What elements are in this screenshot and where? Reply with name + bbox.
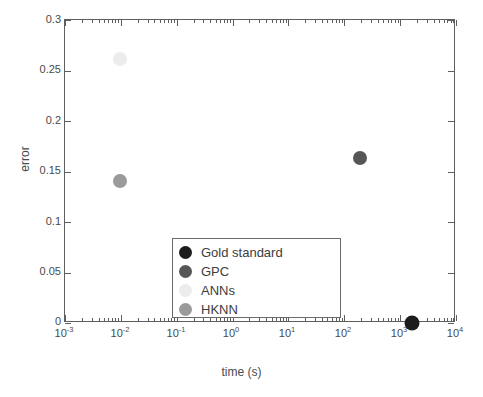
x-tick-label: 103 xyxy=(391,327,407,339)
y-axis-major-tick xyxy=(65,222,71,223)
x-axis-minor-tick xyxy=(280,318,281,321)
x-axis-minor-tick xyxy=(115,20,116,23)
y-tick-label: 0.2 xyxy=(46,115,61,126)
x-axis-minor-tick xyxy=(383,318,384,321)
x-axis-major-tick xyxy=(400,315,401,321)
x-axis-minor-tick xyxy=(453,318,454,321)
x-axis-minor-tick xyxy=(92,318,93,321)
data-point-hknn xyxy=(113,174,127,188)
data-point-anns xyxy=(113,52,127,66)
legend-item-gpc: GPC xyxy=(179,262,229,281)
x-axis-minor-tick xyxy=(220,20,221,23)
x-axis-minor-tick xyxy=(444,318,445,321)
y-axis-major-tick xyxy=(65,20,71,21)
x-axis-minor-tick xyxy=(371,318,372,321)
x-axis-minor-tick xyxy=(388,318,389,321)
x-axis-major-tick xyxy=(177,20,178,26)
x-axis-minor-tick xyxy=(336,318,337,321)
x-axis-minor-tick xyxy=(99,318,100,321)
x-axis-minor-tick xyxy=(439,318,440,321)
x-axis-minor-tick xyxy=(427,20,428,23)
x-axis-minor-tick xyxy=(168,20,169,23)
x-axis-major-tick xyxy=(121,20,122,26)
x-axis-minor-tick xyxy=(383,20,384,23)
x-axis-minor-tick xyxy=(171,20,172,23)
x-axis-minor-tick xyxy=(395,20,396,23)
y-axis-major-tick xyxy=(448,323,454,324)
x-axis-minor-tick xyxy=(230,20,231,23)
legend-label: HKNN xyxy=(201,303,238,317)
y-tick-label: 0.15 xyxy=(40,165,61,176)
x-axis-minor-tick xyxy=(272,318,273,321)
x-axis-minor-tick xyxy=(286,20,287,23)
x-axis-minor-tick xyxy=(322,318,323,321)
x-axis-minor-tick xyxy=(395,318,396,321)
y-axis-major-tick xyxy=(65,323,71,324)
x-axis-minor-tick xyxy=(164,20,165,23)
x-axis-minor-tick xyxy=(259,20,260,23)
x-axis-major-tick xyxy=(233,20,234,26)
y-tick-label: 0.25 xyxy=(40,64,61,75)
x-axis-minor-tick xyxy=(266,20,267,23)
x-axis-minor-tick xyxy=(388,20,389,23)
x-axis-minor-tick xyxy=(361,20,362,23)
x-axis-minor-tick xyxy=(276,318,277,321)
x-axis-major-tick xyxy=(456,20,457,26)
x-axis-minor-tick xyxy=(332,20,333,23)
x-axis-major-tick xyxy=(344,20,345,26)
x-tick-label: 102 xyxy=(335,327,351,339)
x-axis-minor-tick xyxy=(154,318,155,321)
x-axis-minor-tick xyxy=(398,318,399,321)
legend-marker-icon xyxy=(179,303,192,316)
y-tick-label: 0.05 xyxy=(40,266,61,277)
x-axis-minor-tick xyxy=(160,318,161,321)
legend-label: ANNs xyxy=(201,284,235,298)
x-axis-minor-tick xyxy=(391,318,392,321)
x-axis-minor-tick xyxy=(92,20,93,23)
legend-marker-icon xyxy=(179,265,192,278)
y-tick-label: 0.1 xyxy=(46,216,61,227)
x-axis-minor-tick xyxy=(315,318,316,321)
y-axis-major-tick xyxy=(448,222,454,223)
x-tick-label: 10-2 xyxy=(111,327,130,339)
x-axis-minor-tick xyxy=(391,20,392,23)
x-axis-minor-tick xyxy=(439,20,440,23)
x-axis-minor-tick xyxy=(266,318,267,321)
x-axis-minor-tick xyxy=(305,20,306,23)
legend-item-gold-standard: Gold standard xyxy=(179,243,283,262)
x-axis-minor-tick xyxy=(339,20,340,23)
x-axis-minor-tick xyxy=(82,20,83,23)
x-axis-minor-tick xyxy=(283,20,284,23)
x-axis-minor-tick xyxy=(118,20,119,23)
y-axis-major-tick xyxy=(65,172,71,173)
y-axis-major-tick xyxy=(65,273,71,274)
x-axis-minor-tick xyxy=(286,318,287,321)
x-axis-major-tick xyxy=(121,315,122,321)
x-tick-label: 10-1 xyxy=(167,327,186,339)
x-axis-minor-tick xyxy=(160,20,161,23)
x-axis-minor-tick xyxy=(276,20,277,23)
x-axis-minor-tick xyxy=(115,318,116,321)
y-axis-major-tick xyxy=(448,121,454,122)
x-axis-minor-tick xyxy=(434,318,435,321)
x-axis-minor-tick xyxy=(148,20,149,23)
y-axis-title: error xyxy=(18,146,32,171)
x-axis-minor-tick xyxy=(272,20,273,23)
x-axis-minor-tick xyxy=(138,20,139,23)
y-tick-label: 0 xyxy=(55,316,61,327)
y-axis-major-tick xyxy=(448,172,454,173)
x-axis-minor-tick xyxy=(361,318,362,321)
x-axis-minor-tick xyxy=(203,20,204,23)
x-axis-minor-tick xyxy=(216,20,217,23)
x-axis-minor-tick xyxy=(112,20,113,23)
x-axis-minor-tick xyxy=(154,20,155,23)
x-axis-minor-tick xyxy=(104,318,105,321)
x-axis-minor-tick xyxy=(447,318,448,321)
x-axis-minor-tick xyxy=(342,318,343,321)
x-axis-minor-tick xyxy=(82,318,83,321)
legend-label: Gold standard xyxy=(201,246,283,260)
x-tick-label: 101 xyxy=(279,327,295,339)
x-tick-label: 104 xyxy=(447,327,463,339)
legend-item-hknn: HKNN xyxy=(179,300,238,319)
x-axis-minor-tick xyxy=(164,318,165,321)
